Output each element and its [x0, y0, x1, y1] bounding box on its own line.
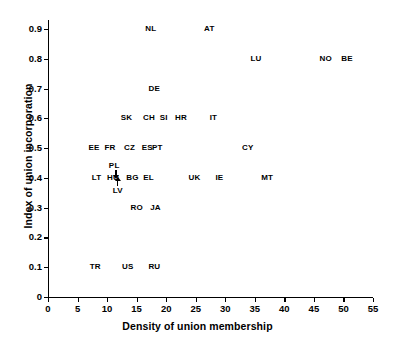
- x-axis-tick: [107, 298, 108, 302]
- x-axis-tick: [343, 298, 344, 302]
- data-point-label-ja: JA: [136, 203, 176, 212]
- x-axis-tick-label: 35: [240, 303, 270, 314]
- x-axis-tick-label: 15: [122, 303, 152, 314]
- x-axis-tick: [314, 298, 315, 302]
- y-axis-tick: [44, 237, 48, 238]
- x-axis-tick: [78, 298, 79, 302]
- scatter-chart-figure: 051015202530354045505500.10.20.30.40.50.…: [0, 0, 395, 344]
- x-axis-tick: [166, 298, 167, 302]
- data-point-label-el: EL: [128, 173, 168, 182]
- y-axis-tick: [44, 89, 48, 90]
- y-axis-tick: [44, 267, 48, 268]
- x-axis-tick-label: 30: [210, 303, 240, 314]
- x-axis-tick-label: 0: [33, 303, 63, 314]
- data-point-label-mt: MT: [247, 173, 287, 182]
- x-axis-tick-label: 5: [63, 303, 93, 314]
- x-axis-tick-label: 25: [181, 303, 211, 314]
- x-axis-tick-label: 50: [328, 303, 358, 314]
- y-axis-spine: [48, 20, 49, 297]
- x-axis-tick-label: 55: [358, 303, 388, 314]
- y-axis-tick: [44, 208, 48, 209]
- x-axis-tick: [48, 298, 49, 302]
- x-axis-tick: [137, 298, 138, 302]
- data-point-label-pl: PL: [94, 161, 134, 170]
- x-axis-spine: [48, 297, 373, 298]
- data-point-label-be: BE: [327, 54, 367, 63]
- x-axis-tick: [255, 298, 256, 302]
- data-point-label-pt: PT: [137, 143, 177, 152]
- y-axis-title: Index of union incorporation: [22, 36, 34, 276]
- x-axis-tick: [373, 298, 374, 302]
- data-point-label-it: IT: [193, 113, 233, 122]
- data-point-label-lu: LU: [236, 54, 276, 63]
- x-axis-tick-label: 45: [299, 303, 329, 314]
- x-axis-tick: [225, 298, 226, 302]
- x-axis-tick: [196, 298, 197, 302]
- x-axis-title: Density of union membership: [0, 320, 395, 332]
- y-axis-tick: [44, 297, 48, 298]
- y-axis-tick-label: 0: [16, 291, 42, 302]
- y-axis-tick: [44, 59, 48, 60]
- data-point-label-de: DE: [134, 84, 174, 93]
- data-point-label-cy: CY: [228, 143, 268, 152]
- data-point-label-ru: RU: [134, 262, 174, 271]
- arrow-head: [115, 177, 121, 181]
- data-point-label-at: AT: [189, 24, 229, 33]
- x-axis-tick-label: 40: [269, 303, 299, 314]
- x-axis-tick: [284, 298, 285, 302]
- data-point-label-ie: IE: [199, 173, 239, 182]
- y-axis-tick-label: 0.9: [16, 23, 42, 34]
- data-point-label-lv: LV: [98, 186, 138, 195]
- data-point-label-nl: NL: [131, 24, 171, 33]
- y-axis-tick: [44, 148, 48, 149]
- y-axis-tick: [44, 29, 48, 30]
- x-axis-tick-label: 10: [92, 303, 122, 314]
- y-axis-tick: [44, 118, 48, 119]
- x-axis-tick-label: 20: [151, 303, 181, 314]
- y-axis-tick: [44, 178, 48, 179]
